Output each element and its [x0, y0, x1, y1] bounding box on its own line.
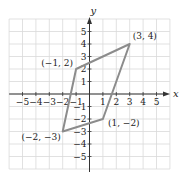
y-tick-label: −2	[73, 114, 86, 124]
x-tick-label: 1	[100, 97, 106, 107]
x-axis-arrow-icon	[163, 92, 170, 97]
vertex-label: (3, 4)	[133, 31, 157, 41]
x-axis-label: x	[173, 88, 179, 99]
y-tick-label: 5	[81, 27, 87, 37]
x-tick-label: 2	[113, 97, 119, 107]
x-tick-label: −4	[29, 97, 43, 107]
x-tick-label: 4	[140, 97, 146, 107]
y-tick-label: −4	[73, 139, 87, 149]
x-tick-label: 3	[127, 97, 133, 107]
x-tick-label: −3	[43, 97, 57, 107]
vertex-label: (1, −2)	[108, 118, 140, 128]
y-tick-label: 1	[81, 77, 87, 87]
vertex-label: (−2, −3)	[21, 132, 60, 142]
x-tick-label: 5	[154, 97, 160, 107]
y-tick-label: 4	[81, 39, 87, 49]
y-tick-label: 3	[81, 52, 87, 62]
y-axis-label: y	[90, 5, 97, 16]
y-tick-label: −1	[73, 102, 86, 112]
y-tick-label: −5	[73, 152, 87, 162]
x-tick-label: −5	[16, 97, 30, 107]
y-axis-arrow-icon	[87, 17, 92, 24]
vertex-label: (−1, 2)	[41, 58, 73, 68]
coordinate-plane: x y −5−4−3−2−112345−5−4−3−2−112345 (3, 4…	[0, 0, 187, 177]
